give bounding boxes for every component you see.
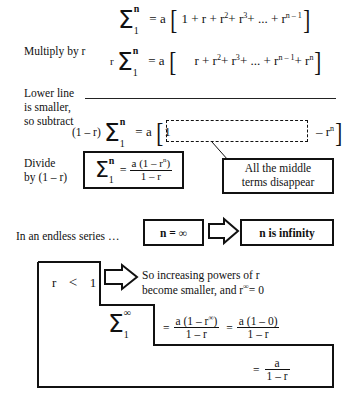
infinite-sum-equals-b: = (226, 322, 233, 334)
infinite-sum-sigma-lower: 1 (124, 329, 129, 340)
infinite-sum-numerator-b: a (1 – 0) (237, 315, 280, 327)
increasing-powers-line-1: So increasing powers of r (142, 268, 264, 283)
infinite-sum-sigma-upper: ∞ (124, 307, 131, 318)
final-result: = a 1 – r (253, 357, 290, 383)
infinite-sum-fraction-a: a (1 – r∞) 1 – r (174, 315, 220, 341)
sigma-glyph: Σ (108, 309, 124, 338)
infinite-sum-right-side: = a (1 – r∞) 1 – r = a (1 – 0) 1 – r (163, 315, 279, 341)
block-arrow-right-icon (105, 265, 137, 289)
infinite-sum-denominator-a: 1 – r (174, 327, 220, 340)
increasing-powers-note: So increasing powers of r become smaller… (142, 268, 264, 298)
infinite-sum-equals-a: = (163, 322, 170, 334)
infinite-sum-sigma: Σ ∞ 1 (108, 312, 124, 336)
infinite-sum-sigma-group: Σ ∞ 1 (108, 312, 124, 336)
final-numerator: a (265, 357, 290, 369)
block-arrow-2-svg (0, 0, 342, 411)
infinite-sum-numerator-a: a (1 – r∞) (174, 315, 220, 327)
final-equals: = (253, 364, 260, 376)
infinite-sum-denominator-b: 1 – r (237, 327, 280, 340)
infinite-sum-fraction-b: a (1 – 0) 1 – r (237, 315, 280, 341)
final-denominator: 1 – r (265, 369, 290, 382)
increasing-powers-line-2: become smaller, and r∞= 0 (142, 283, 264, 298)
final-fraction: a 1 – r (265, 357, 290, 383)
diagram-canvas: Σ n 1 = a [ 1 + r + r2+ r3+ ... + rn – 1… (0, 0, 342, 411)
